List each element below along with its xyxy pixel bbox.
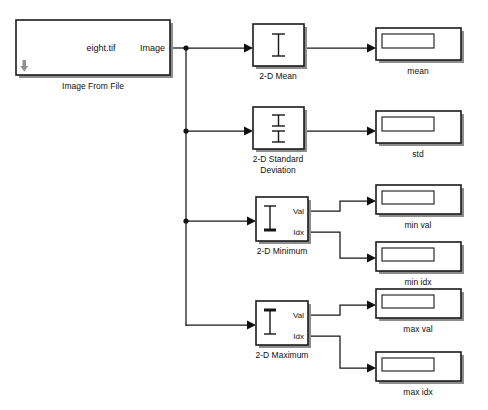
block-label-2d-minimum: 2-D Minimum <box>257 246 308 256</box>
arrowhead-std-display <box>367 127 376 136</box>
display-readout-field <box>382 248 434 261</box>
arrowhead-max-val <box>367 301 376 310</box>
display-readout-field <box>382 34 434 48</box>
display-block-min-idx[interactable]: min idx <box>376 242 464 287</box>
block-2d-maximum[interactable]: Val Idx 2-D Maximum <box>256 301 311 360</box>
block-2d-minimum[interactable]: Val Idx 2-D Minimum <box>256 197 311 256</box>
display-block-mean[interactable]: mean <box>376 28 464 76</box>
display-block-max-idx[interactable]: max idx <box>376 352 464 397</box>
block-image-from-file[interactable]: eight.tif Image Image From File <box>16 20 173 91</box>
port-label-min-idx: Idx <box>293 228 304 237</box>
block-label-2d-maximum: 2-D Maximum <box>256 350 309 360</box>
source-output-port-label: Image <box>140 43 165 53</box>
arrowhead-max-idx <box>367 364 376 373</box>
port-label-max-idx: Idx <box>293 332 304 341</box>
display-block-std[interactable]: std <box>376 111 464 159</box>
wire-min-idx <box>311 232 367 258</box>
arrowhead-mean-display <box>367 44 376 53</box>
junction-dot-minimum <box>183 218 188 223</box>
display-readout-field <box>382 117 434 131</box>
display-caption-mean: mean <box>407 66 429 76</box>
display-caption-min-val: min val <box>405 220 432 230</box>
block-2d-standard-deviation[interactable]: 2-D Standard Deviation <box>253 107 307 175</box>
port-label-max-val: Val <box>293 311 304 320</box>
block-2d-mean[interactable]: 2-D Mean <box>253 24 307 81</box>
display-caption-max-idx: max idx <box>403 387 433 397</box>
block-label-2d-mean: 2-D Mean <box>259 71 297 81</box>
display-readout-field <box>382 358 434 371</box>
block-label-2d-std-line2: Deviation <box>260 165 296 175</box>
wire-min-val <box>311 201 367 211</box>
block-diagram: eight.tif Image Image From File 2-D Mean <box>0 0 488 410</box>
arrowhead-min-idx <box>367 254 376 263</box>
model-canvas[interactable]: eight.tif Image Image From File 2-D Mean <box>0 0 488 410</box>
wire-max-idx <box>311 336 367 368</box>
wire-group-outputs <box>307 44 376 373</box>
junction-dot-mean <box>183 45 188 50</box>
wire-group-source-trunk <box>172 44 256 330</box>
arrowhead-maximum-in <box>247 321 256 330</box>
port-label-min-val: Val <box>293 207 304 216</box>
junction-dot-std <box>183 128 188 133</box>
display-caption-std: std <box>412 149 424 159</box>
display-readout-field <box>382 295 434 308</box>
block-label-image-from-file: Image From File <box>62 81 124 91</box>
wire-max-val <box>311 305 367 315</box>
arrowhead-minimum-in <box>247 217 256 226</box>
display-caption-min-idx: min idx <box>405 277 433 287</box>
arrowhead-std-in <box>244 127 253 136</box>
source-file-value: eight.tif <box>86 43 116 53</box>
display-caption-max-val: max val <box>403 324 432 334</box>
display-block-min-val[interactable]: min val <box>376 185 464 230</box>
arrowhead-min-val <box>367 197 376 206</box>
display-block-max-val[interactable]: max val <box>376 289 464 334</box>
arrowhead-mean-in <box>244 44 253 53</box>
display-readout-field <box>382 191 434 204</box>
block-label-2d-std-line1: 2-D Standard <box>253 154 304 164</box>
